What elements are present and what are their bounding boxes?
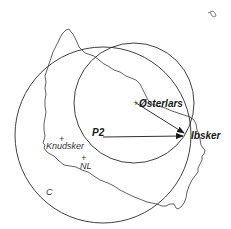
bornholm-map: + + + Østerlars Ibsker P2 Knudsker NL C	[0, 0, 231, 229]
label-ibsker: Ibsker	[191, 130, 222, 141]
coastline	[43, 29, 205, 209]
marker-osterlars: +	[133, 98, 138, 108]
label-p2: P2	[92, 127, 105, 138]
label-c: C	[46, 187, 53, 197]
christianso-islet-icon	[208, 11, 216, 17]
arrow-p2-to-ibsker	[103, 136, 183, 137]
label-knudsker: Knudsker	[46, 141, 85, 151]
label-osterlars: Østerlars	[139, 98, 183, 109]
label-nl: NL	[80, 161, 92, 171]
